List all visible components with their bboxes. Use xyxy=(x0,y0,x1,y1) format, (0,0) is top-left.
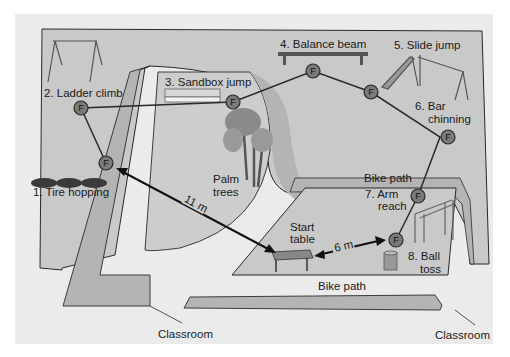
station-node-3[interactable]: F xyxy=(226,95,240,109)
palm-trees-label-line2: trees xyxy=(213,186,239,198)
palm-trees-label-line1: Palm xyxy=(213,173,239,185)
node-marker-text: F xyxy=(368,87,374,97)
fitness-course-diagram: F F F F F F F F 1. Tire hopping 2. Ladde… xyxy=(0,0,510,357)
station-label-7-line1: 7. Arm xyxy=(365,188,398,200)
station-node-8[interactable]: F xyxy=(389,233,403,247)
ball-toss-bucket-icon xyxy=(384,251,397,270)
node-marker-text: F xyxy=(230,97,236,107)
station-node-5[interactable]: F xyxy=(364,85,378,99)
sandbox-icon xyxy=(165,89,220,102)
station-node-4[interactable]: F xyxy=(306,64,320,78)
node-marker-text: F xyxy=(310,66,316,76)
start-table-label-line2: table xyxy=(290,233,315,245)
station-label-7-line2: reach xyxy=(378,200,407,212)
bike-path-label-lower: Bike path xyxy=(318,280,366,292)
lower-bike-path xyxy=(184,295,442,310)
node-marker-text: F xyxy=(445,132,451,142)
station-label-1: 1. Tire hopping xyxy=(33,186,109,198)
station-node-2[interactable]: F xyxy=(74,101,88,115)
station-label-6-line2: chinning xyxy=(428,113,471,125)
node-marker-text: F xyxy=(415,191,421,201)
station-label-2: 2. Ladder climb xyxy=(44,87,123,99)
node-marker-text: F xyxy=(393,235,399,245)
station-node-6[interactable]: F xyxy=(441,130,455,144)
node-marker-text: F xyxy=(78,103,84,113)
station-label-8-line2: toss xyxy=(420,263,441,275)
classroom-label-left: Classroom xyxy=(158,328,213,340)
station-label-3: 3. Sandbox jump xyxy=(165,76,251,88)
bike-path-label-upper: Bike path xyxy=(364,172,412,184)
station-node-1[interactable]: F xyxy=(99,156,113,170)
station-label-5: 5. Slide jump xyxy=(394,39,460,51)
node-marker-text: F xyxy=(103,158,109,168)
start-table-label-line1: Start xyxy=(290,221,315,233)
station-node-7[interactable]: F xyxy=(411,189,425,203)
station-label-8-line1: 8. Ball xyxy=(408,250,440,262)
classroom-label-right: Classroom xyxy=(435,329,490,341)
station-label-4: 4. Balance beam xyxy=(280,38,366,50)
station-label-6-line1: 6. Bar xyxy=(415,100,446,112)
